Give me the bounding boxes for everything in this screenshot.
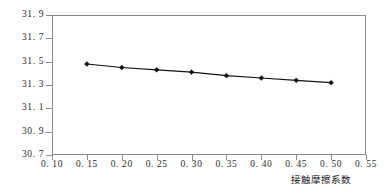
y-tick-label: 31. 7 [0,33,44,43]
x-tick-mark [261,155,262,160]
x-tick-mark [296,155,297,160]
x-tick-mark [366,155,367,160]
series-markers [84,62,333,85]
x-tick-mark [331,155,332,160]
x-axis-title: 接触摩擦系数 [266,174,376,185]
series-marker [154,67,159,72]
y-tick-label: 31. 1 [0,103,44,113]
y-tick-label: 30. 9 [0,127,44,137]
y-tick-label: 31. 9 [0,10,44,20]
series-marker [329,80,334,85]
x-tick-mark [52,155,53,160]
series-marker [189,70,194,75]
y-tick-label: 31. 5 [0,57,44,67]
series-marker [119,65,124,70]
x-tick-mark [192,155,193,160]
x-tick-mark [87,155,88,160]
series-marker [84,62,89,67]
x-tick-mark [122,155,123,160]
series-marker [294,78,299,83]
series-marker [224,73,229,78]
series-marker [259,76,264,81]
plot-area [52,15,366,155]
x-tick-mark [226,155,227,160]
chart-figure: 30. 730. 931. 131. 331. 531. 731. 9 0. 1… [0,0,386,196]
y-tick-label: 31. 3 [0,80,44,90]
x-tick-label: 0. 55 [346,159,386,169]
x-tick-mark [157,155,158,160]
